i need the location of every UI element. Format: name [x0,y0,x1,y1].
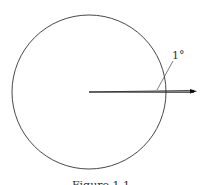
angle-leader-line [157,61,173,90]
angle-label: 1° [172,49,185,62]
figure-caption: Figure 1.1 [72,179,130,185]
circle-angle-diagram: 1° Figure 1.1 [0,0,203,185]
arrowhead-icon [190,89,197,94]
